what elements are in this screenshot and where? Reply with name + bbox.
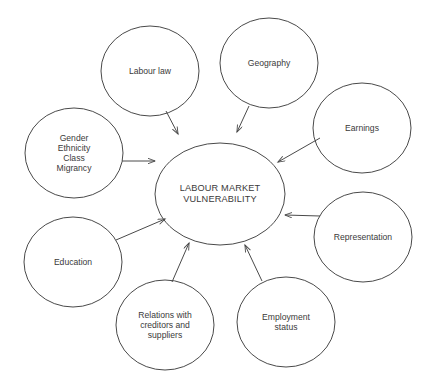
arrow-employment-status-to-center [245,245,262,281]
arrow-labour-law-to-center [166,111,178,134]
node-circle-education[interactable] [24,217,122,307]
node-circle-representation[interactable] [314,192,412,282]
diagram-canvas: LABOUR MARKET VULNERABILITYLabour lawGeo… [0,0,433,386]
arrow-representation-to-center [285,215,320,216]
node-circle-earnings[interactable] [313,83,411,173]
node-circle-geography[interactable] [220,18,318,108]
node-shapes-group [24,18,412,370]
node-circle-labour-law[interactable] [101,26,199,116]
node-circle-employment-status[interactable] [237,277,335,367]
arrow-geography-to-center [237,106,249,132]
node-circle-relations-creditors-suppliers[interactable] [116,280,214,370]
diagram-svg [0,0,433,386]
node-circle-gender-ethnicity-class-migrancy[interactable] [25,108,123,198]
arrow-relations-to-center [172,243,189,282]
node-circle-labour-market-vulnerability[interactable] [155,143,285,245]
arrow-education-to-center [116,219,165,240]
arrow-earnings-to-center [278,138,320,162]
